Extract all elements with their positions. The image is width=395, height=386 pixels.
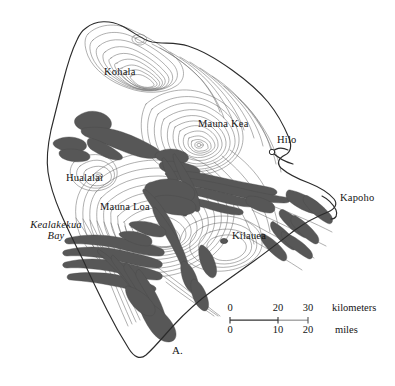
hilo-marker (269, 149, 274, 154)
label-hualalai: Hualalai (66, 172, 103, 183)
hawaii-island-map-figure: Kohala Mauna Kea Hilo Hualalai Mauna Loa… (0, 0, 395, 386)
label-kohala: Kohala (104, 66, 136, 77)
label-kapoho: Kapoho (340, 192, 374, 203)
scale-rule-graphic (228, 317, 326, 324)
scale-km-tick-labels: 0 20 30 (228, 302, 326, 315)
scale-km-tick-20: 20 (273, 302, 284, 313)
scale-mi-tick-0: 0 (227, 324, 232, 335)
scale-mi-unit-label: miles (335, 324, 358, 335)
scale-bar: 0 20 30 kilometers 0 10 20 miles (228, 302, 388, 342)
scale-km-tick-30: 30 (303, 302, 314, 313)
label-mauna-loa: Mauna Loa (100, 201, 150, 212)
scale-mi-tick-labels: 0 10 20 (228, 324, 326, 337)
scale-km-tick-0: 0 (227, 302, 232, 313)
scale-km-unit-label: kilometers (332, 302, 376, 313)
label-kilauea: Kilauea (232, 230, 266, 241)
scale-mi-tick-20: 20 (303, 324, 314, 335)
label-hilo: Hilo (277, 134, 296, 145)
label-mauna-kea: Mauna Kea (198, 118, 249, 129)
point-markers (269, 149, 274, 154)
label-kealakekua-bay: Kealakekua Bay (17, 219, 95, 241)
label-kealakekua-bay-line1: Kealakekua (30, 219, 82, 230)
scale-mi-tick-10: 10 (273, 324, 284, 335)
label-kealakekua-bay-line2: Bay (48, 230, 65, 241)
panel-letter: A. (172, 344, 183, 356)
